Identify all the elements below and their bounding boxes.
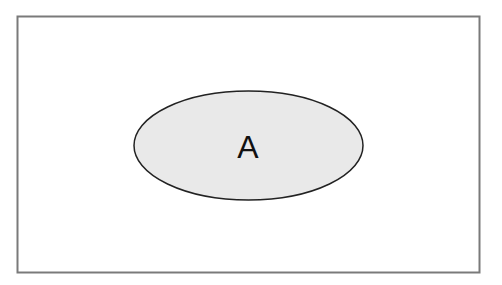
set-a-label: A <box>237 129 259 165</box>
venn-diagram: A <box>0 0 502 285</box>
